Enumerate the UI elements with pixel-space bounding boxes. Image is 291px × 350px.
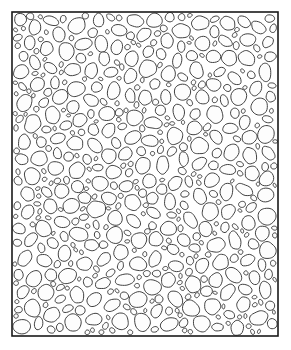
grain-particle bbox=[44, 30, 48, 35]
grain-particle bbox=[110, 328, 115, 333]
grain-particle bbox=[272, 226, 277, 230]
grain-particle bbox=[213, 291, 217, 294]
grain-particle bbox=[131, 233, 146, 249]
grain-particle bbox=[165, 193, 176, 209]
grain-particle bbox=[252, 303, 257, 307]
grain-particle bbox=[161, 90, 171, 105]
grain-particle bbox=[70, 131, 74, 136]
grain-particle bbox=[160, 25, 167, 32]
grain-particle bbox=[212, 148, 221, 158]
grain-particle bbox=[78, 129, 85, 135]
grain-particle bbox=[85, 63, 98, 79]
grain-particle bbox=[268, 83, 276, 88]
grain-particle bbox=[37, 137, 47, 148]
grain-particle bbox=[181, 120, 184, 124]
grain-particle bbox=[91, 82, 102, 92]
grain-particle bbox=[111, 182, 118, 189]
grain-particle bbox=[273, 233, 278, 238]
grain-particle bbox=[47, 326, 55, 333]
grain-particle bbox=[51, 231, 55, 235]
grain-particle bbox=[42, 126, 51, 133]
grain-particle bbox=[151, 40, 157, 46]
grain-particle bbox=[198, 175, 202, 179]
grain-particle bbox=[273, 140, 278, 143]
grain-particle bbox=[226, 321, 230, 325]
grain-particle bbox=[167, 127, 182, 144]
grain-particle bbox=[35, 187, 40, 191]
grain-particle bbox=[15, 43, 20, 49]
grain-particle bbox=[245, 166, 259, 181]
grain-particle bbox=[131, 309, 137, 315]
grain-particle bbox=[99, 107, 115, 121]
grain-particle bbox=[251, 195, 257, 201]
grain-particle bbox=[177, 217, 180, 221]
grain-particle bbox=[85, 224, 89, 228]
grain-particle bbox=[136, 43, 140, 47]
grain-particle bbox=[221, 222, 229, 232]
grain-particle bbox=[51, 281, 56, 286]
grain-particle bbox=[42, 177, 47, 181]
grain-particle bbox=[82, 77, 86, 81]
grain-particle bbox=[143, 203, 148, 208]
grain-particle bbox=[88, 52, 93, 56]
grain-particle bbox=[235, 27, 240, 31]
grain-particle bbox=[15, 306, 23, 312]
grain-particle bbox=[238, 250, 243, 255]
grain-particle bbox=[24, 299, 40, 317]
grain-particle bbox=[251, 98, 267, 115]
grain-particle bbox=[41, 73, 45, 77]
grain-particle bbox=[165, 116, 170, 120]
grain-particle bbox=[162, 272, 176, 287]
grain-particle bbox=[62, 80, 66, 85]
grain-particle bbox=[222, 304, 225, 309]
grain-particle bbox=[15, 300, 19, 304]
grain-particle bbox=[256, 143, 260, 149]
grain-particle bbox=[63, 198, 79, 213]
grain-particle bbox=[145, 229, 151, 234]
grain-particle bbox=[106, 207, 111, 210]
grain-particle bbox=[149, 222, 157, 230]
grain-particle bbox=[212, 323, 224, 331]
grain-particle bbox=[21, 26, 25, 30]
grain-particle bbox=[27, 89, 31, 94]
grain-particle bbox=[232, 33, 237, 38]
grain-particle bbox=[13, 28, 17, 32]
grain-particle bbox=[155, 105, 165, 115]
grain-particle bbox=[14, 176, 22, 185]
grain-particle bbox=[140, 77, 144, 82]
grain-particle bbox=[140, 125, 145, 132]
grain-particle bbox=[94, 231, 100, 238]
grain-particle bbox=[14, 202, 21, 210]
grain-particle bbox=[128, 161, 133, 166]
grain-particle bbox=[134, 102, 139, 108]
grain-particle bbox=[84, 187, 88, 191]
grain-particle bbox=[231, 108, 240, 118]
grain-particle bbox=[126, 32, 134, 40]
grain-particle bbox=[135, 185, 139, 190]
grain-particle bbox=[93, 220, 99, 229]
grain-particle bbox=[154, 31, 160, 37]
grain-particle bbox=[150, 151, 154, 155]
grain-particle bbox=[45, 269, 57, 281]
grain-particle bbox=[114, 245, 128, 260]
grain-particle bbox=[167, 212, 177, 218]
grain-particle bbox=[13, 239, 21, 246]
grain-particle bbox=[43, 57, 47, 61]
grain-particle bbox=[223, 123, 238, 133]
granular-packing-figure bbox=[0, 0, 291, 350]
grain-particle bbox=[132, 248, 136, 252]
grain-particle bbox=[258, 259, 266, 271]
grain-particle bbox=[58, 208, 63, 212]
grain-particle bbox=[199, 221, 212, 236]
grain-particle bbox=[71, 181, 83, 193]
grain-particle bbox=[125, 44, 131, 49]
grain-particle bbox=[208, 161, 218, 170]
grain-particle bbox=[177, 280, 182, 284]
grain-particle bbox=[116, 15, 122, 21]
grain-particle bbox=[176, 209, 180, 214]
grain-particle bbox=[153, 99, 159, 105]
grain-particle bbox=[212, 97, 217, 103]
grain-particle bbox=[246, 324, 251, 329]
grain-particle bbox=[193, 233, 200, 241]
grain-particle bbox=[14, 125, 18, 131]
